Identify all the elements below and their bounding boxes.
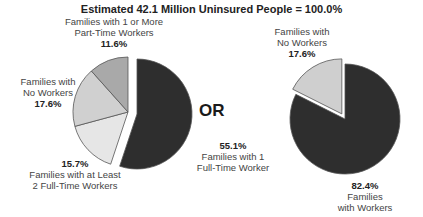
label-text: Part-Time Workers (54, 27, 174, 38)
label-text: Families with 1 (188, 151, 278, 162)
right-pie (290, 59, 400, 174)
label-pct: 17.6% (289, 48, 316, 59)
label-text: Families with at Least (20, 169, 130, 180)
left-pie (73, 57, 192, 169)
label-text: No Workers (8, 87, 88, 98)
label-text: No Workers (262, 37, 342, 48)
label-pct: 15.7% (62, 158, 89, 169)
label-text: 2 Full-Time Workers (20, 180, 130, 191)
label-no-workers-right: Families with No Workers 17.6% (262, 26, 342, 59)
label-part-time: Families with 1 or More Part-Time Worker… (54, 16, 174, 49)
label-text: Families (330, 191, 400, 202)
label-one-full-time: 55.1% Families with 1 Full-Time Worker (188, 140, 278, 173)
label-pct: 55.1% (220, 140, 247, 151)
slice-0 (120, 59, 192, 169)
label-text: with Workers (330, 202, 400, 213)
label-pct: 17.6% (35, 98, 62, 109)
label-text: Families with (8, 76, 88, 87)
label-no-workers-left: Families with No Workers 17.6% (8, 76, 88, 109)
label-text: Full-Time Worker (188, 162, 278, 173)
label-pct: 82.4% (352, 180, 379, 191)
label-text: Families with 1 or More (54, 16, 174, 27)
label-pct: 11.6% (101, 38, 127, 49)
label-text: Families with (262, 26, 342, 37)
label-with-workers: 82.4% Families with Workers (330, 180, 400, 213)
label-two-full-time: 15.7% Families with at Least 2 Full-Time… (20, 158, 130, 191)
or-separator: OR (199, 101, 225, 121)
